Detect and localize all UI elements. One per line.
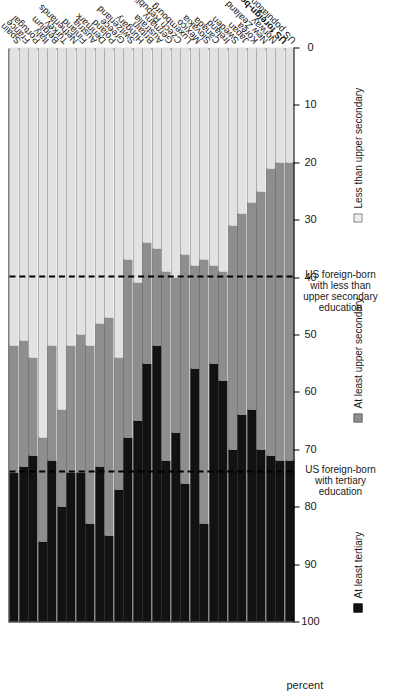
bar-segment-lesssec xyxy=(95,47,104,323)
bar-segment-upsec xyxy=(171,277,180,432)
bar-segment-lesssec xyxy=(171,47,180,277)
bar-segment-upsec xyxy=(38,437,47,540)
bar-segment-upsec xyxy=(256,191,265,449)
bar-segment-lesssec xyxy=(180,47,189,254)
axis-title: percent xyxy=(286,678,323,690)
bar-row xyxy=(247,47,256,621)
bar-row xyxy=(133,47,142,621)
bar-segment-upsec xyxy=(19,340,28,466)
bar-segment-tert xyxy=(28,455,37,621)
bar-segment-tert xyxy=(76,472,85,621)
legend-item-upsec[interactable]: At least upper secondary xyxy=(352,297,363,422)
bar-segment-upsec xyxy=(190,265,199,368)
bar-segment-lesssec xyxy=(161,47,170,271)
bar-segment-upsec xyxy=(104,317,113,535)
bar-row xyxy=(9,47,18,621)
bar-row xyxy=(66,47,75,621)
axis-tick-label: 50 xyxy=(290,327,330,339)
legend-item-tert[interactable]: At least tertiary xyxy=(352,531,363,612)
bar-segment-lesssec xyxy=(199,47,208,259)
bar-segment-tert xyxy=(171,432,180,621)
bar-segment-lesssec xyxy=(133,47,142,282)
bar-segment-upsec xyxy=(228,225,237,449)
bar-segment-lesssec xyxy=(247,47,256,202)
bar-segment-upsec xyxy=(218,271,227,380)
bar-segment-upsec xyxy=(285,162,294,460)
bar-segment-lesssec xyxy=(38,47,47,437)
bar-segment-tert xyxy=(266,455,275,621)
bar-segment-upsec xyxy=(66,346,75,472)
bar-row xyxy=(114,47,123,621)
bar-segment-tert xyxy=(152,345,161,621)
legend-label: Less than upper secondary xyxy=(352,87,363,208)
bar-segment-upsec xyxy=(57,409,66,507)
bar-segment-lesssec xyxy=(209,47,218,265)
bar-segment-tert xyxy=(161,460,170,621)
bar-segment-tert xyxy=(190,368,199,621)
bar-segment-upsec xyxy=(47,345,56,460)
bar-row xyxy=(123,47,132,621)
bar-segment-tert xyxy=(38,541,47,621)
legend-swatch-tert xyxy=(353,603,362,612)
bar-row xyxy=(104,47,113,621)
bar-segment-tert xyxy=(285,460,294,621)
bar-segment-lesssec xyxy=(9,47,18,345)
bar-segment-lesssec xyxy=(142,47,151,242)
bar-segment-tert xyxy=(228,449,237,621)
bar-segment-upsec xyxy=(9,346,18,472)
axis-tick-label: 0 xyxy=(290,40,330,52)
bar-segment-upsec xyxy=(152,248,161,346)
bar-segment-tert xyxy=(133,420,142,621)
plot-area xyxy=(8,48,293,622)
bar-segment-upsec xyxy=(85,345,94,523)
bar-segment-upsec xyxy=(161,271,170,460)
bar-segment-upsec xyxy=(133,282,142,420)
bar-segment-tert xyxy=(275,460,284,621)
bar-segment-tert xyxy=(237,414,246,621)
bar-row xyxy=(142,47,151,621)
bar-segment-lesssec xyxy=(114,47,123,357)
bar-segment-tert xyxy=(104,535,113,621)
bar-segment-tert xyxy=(199,523,208,621)
rotated-figure-wrapper: 0102030405060708090100 percent SpainFran… xyxy=(0,0,399,696)
bar-segment-upsec xyxy=(76,334,85,472)
bar-segment-upsec xyxy=(237,213,246,414)
axis-tick-label: 20 xyxy=(290,155,330,167)
bar-row xyxy=(95,47,104,621)
bar-segment-tert xyxy=(47,460,56,621)
bar-row xyxy=(209,47,218,621)
bar-segment-lesssec xyxy=(19,47,28,340)
bar-segment-tert xyxy=(57,506,66,621)
bar-row xyxy=(190,47,199,621)
bar-row xyxy=(237,47,246,621)
bar-segment-tert xyxy=(114,489,123,621)
axis-tick-label: 80 xyxy=(290,499,330,511)
axis-tick-label: 70 xyxy=(290,442,330,454)
bar-segment-upsec xyxy=(95,323,104,467)
bar-segment-tert xyxy=(66,472,75,621)
bar-segment-lesssec xyxy=(218,47,227,271)
reference-line xyxy=(9,275,292,277)
bar-segment-lesssec xyxy=(66,47,75,345)
bar-row xyxy=(85,47,94,621)
bar-segment-upsec xyxy=(199,259,208,523)
legend-item-lesssec[interactable]: Less than upper secondary xyxy=(352,87,363,222)
bar-segment-tert xyxy=(209,363,218,621)
bar-segment-tert xyxy=(123,437,132,621)
bar-row xyxy=(47,47,56,621)
chart-legend: At least tertiaryAt least upper secondar… xyxy=(352,48,374,622)
bar-segment-upsec xyxy=(114,357,123,489)
bar-row xyxy=(256,47,265,621)
bar-segment-tert xyxy=(85,523,94,621)
bar-segment-upsec xyxy=(247,202,256,409)
bar-row xyxy=(180,47,189,621)
bar-row xyxy=(28,47,37,621)
bar-row xyxy=(76,47,85,621)
reference-line xyxy=(9,470,292,472)
bar-segment-lesssec xyxy=(275,47,284,162)
bar-segment-lesssec xyxy=(123,47,132,259)
bar-segment-tert xyxy=(247,409,256,621)
axis-tick-label: 10 xyxy=(290,97,330,109)
bar-segment-upsec xyxy=(266,168,275,455)
bar-row xyxy=(199,47,208,621)
